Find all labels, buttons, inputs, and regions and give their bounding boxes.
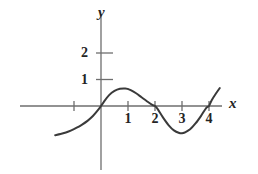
y-tick-label-1: 1 <box>74 73 88 87</box>
x-tick-label-4: 4 <box>202 112 216 126</box>
coordinate-plane <box>0 0 258 174</box>
graph-figure: y x 2 1 1 2 3 4 <box>0 0 258 174</box>
y-axis-ticks <box>96 53 113 80</box>
x-tick-label-3: 3 <box>175 112 189 126</box>
function-curve <box>55 88 220 135</box>
y-tick-label-2: 2 <box>74 46 88 60</box>
x-tick-label-1: 1 <box>121 112 135 126</box>
x-axis-label: x <box>229 96 237 111</box>
x-tick-label-2: 2 <box>148 112 162 126</box>
y-axis-label: y <box>98 5 105 20</box>
